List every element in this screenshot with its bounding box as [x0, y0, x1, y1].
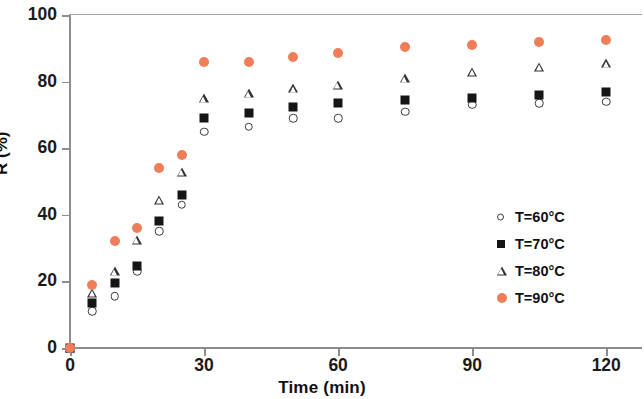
- data-point: [245, 122, 254, 131]
- legend-item-t70c[interactable]: T=70°C: [497, 230, 637, 257]
- data-point: [535, 99, 544, 108]
- y-tick: [62, 281, 70, 283]
- data-point: [132, 235, 142, 244]
- data-point: [334, 99, 343, 108]
- data-point: [154, 195, 164, 204]
- data-point: [601, 59, 611, 68]
- legend-label: T=80°C: [515, 263, 565, 279]
- y-tick-label: 20: [0, 272, 57, 290]
- marker-open-triangle-icon: [497, 266, 507, 275]
- marker-open-circle-icon: [497, 213, 504, 220]
- legend-label: T=60°C: [515, 209, 565, 225]
- data-point: [132, 223, 142, 233]
- data-point: [288, 84, 298, 93]
- data-point: [65, 343, 75, 353]
- data-point: [467, 67, 477, 76]
- chart-figure: 020406080100 0306090120 R (%) Time (min)…: [0, 0, 644, 399]
- data-point: [177, 150, 187, 160]
- data-point: [87, 289, 97, 298]
- data-point: [110, 292, 119, 301]
- data-point: [400, 74, 410, 83]
- data-point: [334, 114, 343, 123]
- x-tick-label: 0: [40, 357, 100, 375]
- data-point: [133, 262, 142, 271]
- data-point: [200, 114, 209, 123]
- data-point: [199, 57, 209, 67]
- data-point: [333, 48, 343, 58]
- data-point: [244, 89, 254, 98]
- data-point: [467, 40, 477, 50]
- marker-filled-square-icon: [497, 240, 505, 248]
- y-tick-label: 40: [0, 206, 57, 224]
- data-point: [110, 236, 120, 246]
- data-point: [88, 299, 97, 308]
- data-point: [602, 97, 611, 106]
- y-tick: [62, 215, 70, 217]
- data-point: [177, 190, 186, 199]
- x-tick-label: 90: [442, 357, 502, 375]
- data-point: [177, 201, 186, 210]
- data-point: [333, 80, 343, 89]
- data-point: [154, 163, 164, 173]
- data-point: [88, 307, 97, 316]
- data-point: [177, 167, 187, 176]
- data-point: [602, 87, 611, 96]
- y-tick: [62, 15, 70, 17]
- legend-item-t90c[interactable]: T=90°C: [497, 284, 637, 311]
- legend-item-t60c[interactable]: T=60°C: [497, 203, 637, 230]
- x-tick-label: 60: [308, 357, 368, 375]
- data-point: [534, 62, 544, 71]
- data-point: [110, 279, 119, 288]
- data-point: [200, 127, 209, 136]
- y-tick: [62, 82, 70, 84]
- data-point: [401, 95, 410, 104]
- x-tick-label: 30: [174, 357, 234, 375]
- data-point: [244, 109, 253, 118]
- y-tick: [62, 148, 70, 150]
- data-point: [87, 280, 97, 290]
- data-point: [289, 114, 298, 123]
- y-tick-label: 0: [0, 339, 57, 357]
- x-tick-label: 120: [576, 357, 636, 375]
- data-point: [289, 102, 298, 111]
- legend-label: T=70°C: [515, 236, 565, 252]
- data-point: [534, 37, 544, 47]
- data-point: [401, 107, 410, 116]
- x-axis-title: Time (min): [0, 378, 644, 398]
- y-axis-title: R (%): [0, 132, 12, 175]
- data-point: [199, 94, 209, 103]
- marker-filled-circle-icon: [497, 293, 507, 303]
- y-tick-label: 80: [0, 73, 57, 91]
- data-point: [601, 35, 611, 45]
- chart-legend: T=60°CT=70°CT=80°CT=90°C: [497, 203, 637, 311]
- data-point: [155, 227, 164, 236]
- y-tick-label: 100: [0, 6, 57, 24]
- data-point: [155, 217, 164, 226]
- data-point: [535, 90, 544, 99]
- data-point: [468, 94, 477, 103]
- data-point: [288, 52, 298, 62]
- data-point: [244, 57, 254, 67]
- legend-item-t80c[interactable]: T=80°C: [497, 257, 637, 284]
- legend-label: T=90°C: [515, 290, 565, 306]
- data-point: [400, 42, 410, 52]
- data-point: [110, 267, 120, 276]
